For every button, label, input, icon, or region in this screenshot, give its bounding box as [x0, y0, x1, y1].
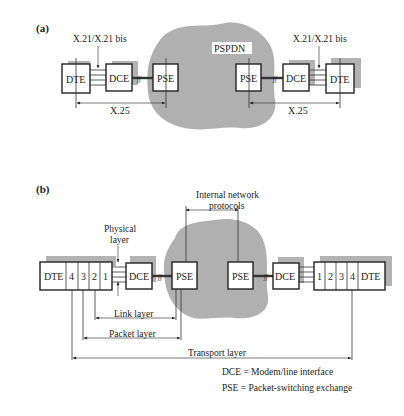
pse-label: PSE — [176, 271, 193, 282]
transport-layer-label: Transport layer — [188, 348, 247, 358]
dte-stack-right: 1 2 3 4 DTE — [314, 262, 385, 290]
dce-label: DCE — [275, 271, 295, 282]
panel-b: (b) Internal network protocols Physical … — [36, 183, 392, 360]
dte-stack-left: DTE 4 3 2 1 — [40, 262, 112, 290]
x21-lines-left — [90, 70, 106, 85]
interface-label-left: X.21/X.21 bis — [73, 34, 127, 44]
layer-4: 4 — [69, 271, 74, 282]
internal-protocols-label-1: Internal network — [196, 190, 259, 200]
panel-a: (a) PSPDN DTE DCE ∫∫ PSE X.21/X.21 bis X… — [36, 22, 361, 129]
physical-layer-label-2: layer — [110, 235, 130, 245]
x25-label-right: X.25 — [288, 105, 308, 116]
packet-layer-label: Packet layer — [109, 329, 157, 339]
layer-3: 3 — [339, 271, 344, 282]
legend-dce: DCE = Modem/line interface — [222, 367, 333, 377]
panel-a-label: (a) — [36, 22, 49, 35]
layer-1: 1 — [103, 271, 108, 282]
layer-4: 4 — [350, 271, 355, 282]
pse-label: PSE — [232, 271, 249, 282]
layer-2: 2 — [328, 271, 333, 282]
physical-layer-label-1: Physical — [104, 224, 137, 234]
legend-pse: PSE = Packet-switching exchange — [222, 383, 352, 393]
layer-2: 2 — [92, 271, 97, 282]
dce-label: DCE — [129, 271, 149, 282]
interface-label-right: X.21/X.21 bis — [293, 34, 347, 44]
pspdn-label: PSPDN — [214, 43, 245, 54]
dce-label: DCE — [109, 73, 129, 84]
dte-label: DTE — [44, 271, 63, 282]
internal-protocols-label-2: protocols — [209, 201, 245, 211]
x25-network-diagram: (a) PSPDN DTE DCE ∫∫ PSE X.21/X.21 bis X… — [0, 0, 404, 416]
layer-1: 1 — [317, 271, 322, 282]
dte-label: DTE — [361, 271, 380, 282]
panel-b-label: (b) — [36, 183, 50, 196]
x25-label-left: X.25 — [110, 105, 130, 116]
layer-3: 3 — [81, 271, 86, 282]
dce-label: DCE — [286, 73, 306, 84]
link-layer-label: Link layer — [114, 309, 154, 319]
legend: DCE = Modem/line interface PSE = Packet-… — [222, 367, 352, 393]
